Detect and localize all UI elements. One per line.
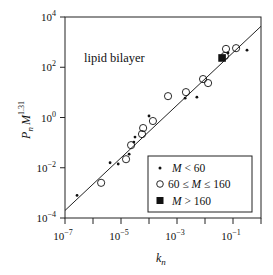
svg-text:60 ≤ M ≤ 160: 60 ≤ M ≤ 160 (168, 178, 231, 190)
point-dot (134, 136, 137, 139)
point-open-circle (204, 79, 211, 86)
point-filled-square (218, 54, 226, 62)
point-open-circle (149, 117, 156, 124)
point-dot (148, 115, 151, 118)
point-open-circle (127, 142, 134, 149)
scatter-chart: 10−710−510−310−1 10410210010−210−4 lipid… (0, 0, 273, 275)
svg-text:M > 160: M > 160 (171, 195, 211, 207)
x-tick-label: 10−5 (109, 228, 129, 242)
point-dot (195, 96, 198, 99)
svg-text:kn: kn (156, 251, 166, 267)
point-dot (184, 97, 187, 100)
y-tick-label: 104 (41, 9, 56, 23)
point-open-circle (164, 93, 171, 100)
point-open-circle (222, 45, 229, 52)
point-dot (76, 194, 79, 197)
x-tick-label: 10−3 (165, 228, 185, 242)
x-tick-label: 10−1 (221, 228, 241, 242)
point-open-circle (232, 45, 239, 52)
legend-item-m-60-160: 60 ≤ M ≤ 160 (157, 178, 231, 190)
y-tick-label: 10−2 (36, 160, 56, 174)
y-tick-label: 10−4 (36, 210, 56, 224)
svg-text:M < 60: M < 60 (171, 162, 206, 174)
svg-text:PnM1.31: PnM1.31 (17, 101, 35, 140)
point-open-circle (122, 156, 129, 163)
point-dot (117, 163, 120, 166)
y-tick-label: 100 (41, 110, 56, 124)
y-axis-label: PnM1.31 (17, 101, 35, 140)
x-tick-label: 10−7 (53, 228, 73, 242)
point-open-circle (182, 89, 189, 96)
point-open-circle (98, 179, 105, 186)
annotation-lipid-bilayer: lipid bilayer (84, 51, 146, 65)
y-tick-label: 102 (41, 59, 56, 73)
y-axis-ticks: 10410210010−210−4 (36, 9, 65, 224)
x-axis-label: kn (156, 251, 166, 267)
point-dot (109, 161, 112, 164)
point-dot (128, 153, 131, 156)
legend: M < 60 60 ≤ M ≤ 160 M > 160 (148, 156, 252, 212)
x-axis-ticks: 10−710−510−310−1 (53, 218, 261, 242)
point-dot (246, 49, 249, 52)
